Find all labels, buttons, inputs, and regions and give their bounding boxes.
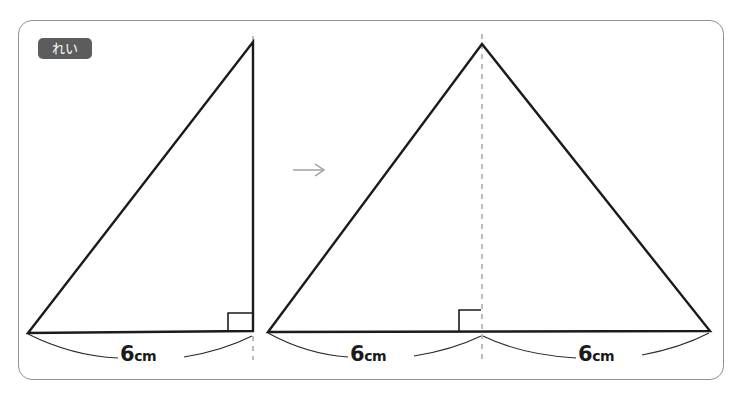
geometry-diagram (0, 0, 742, 399)
left-dimension-arc-b (184, 336, 252, 357)
left-right-angle-mark (228, 313, 252, 331)
left-triangle-outline (28, 42, 253, 333)
right-triangle-group (268, 34, 710, 360)
dimension-right-number: 6 (578, 342, 592, 366)
right-triangle-outline (268, 44, 710, 332)
left-triangle-group (28, 36, 253, 360)
dimension-label-right: 6cm (578, 342, 614, 366)
mid-dimension-arc-a (268, 333, 348, 357)
dimension-left-unit: cm (134, 348, 156, 364)
dimension-left-number: 6 (120, 342, 134, 366)
dimension-right-unit: cm (592, 348, 614, 364)
right-dimension-arc-b (642, 333, 709, 355)
right-right-angle-mark (459, 310, 481, 331)
transform-arrow-icon (293, 164, 324, 176)
dimension-label-left: 6cm (120, 342, 156, 366)
left-dimension-arc-a (28, 334, 118, 358)
example-badge: れい (38, 38, 92, 59)
dimension-middle-unit: cm (364, 348, 386, 364)
dimension-middle-number: 6 (350, 342, 364, 366)
right-dimension-arc-a (483, 336, 576, 358)
mid-dimension-arc-b (414, 336, 481, 356)
dimension-label-middle: 6cm (350, 342, 386, 366)
